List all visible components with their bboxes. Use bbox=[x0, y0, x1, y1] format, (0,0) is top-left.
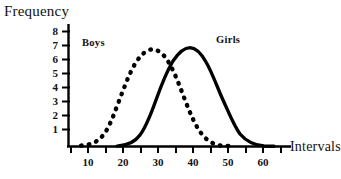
y-tick-label: 8 bbox=[44, 26, 58, 37]
y-tick-label: 7 bbox=[44, 40, 58, 51]
y-tick-label: 2 bbox=[44, 110, 58, 121]
x-tick-label: 20 bbox=[111, 157, 135, 168]
series-curve-girls bbox=[117, 48, 274, 147]
y-axis-title: Frequency bbox=[4, 4, 69, 19]
y-tick-label: 4 bbox=[44, 82, 58, 93]
x-tick-label: 30 bbox=[146, 157, 170, 168]
series-label-boys: Boys bbox=[82, 38, 105, 49]
x-tick-label: 40 bbox=[181, 157, 205, 168]
y-tick-label: 1 bbox=[44, 124, 58, 135]
x-tick-label: 60 bbox=[251, 157, 275, 168]
y-tick-label: 3 bbox=[44, 96, 58, 107]
x-tick-label: 10 bbox=[76, 157, 100, 168]
x-tick-label: 50 bbox=[216, 157, 240, 168]
y-tick-label: 6 bbox=[44, 54, 58, 65]
y-tick-label: 5 bbox=[44, 68, 58, 79]
series-label-girls: Girls bbox=[216, 35, 240, 46]
x-axis-title: Intervals bbox=[290, 140, 341, 154]
